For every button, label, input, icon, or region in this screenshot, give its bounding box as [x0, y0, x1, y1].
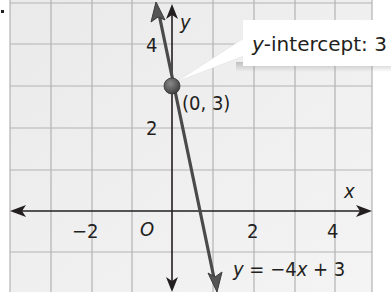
- x-tick-label: 4: [327, 219, 338, 243]
- equation-label: y = −4x + 3: [232, 257, 345, 281]
- x-tick-label: 2: [247, 219, 258, 243]
- origin-label: O: [140, 217, 154, 241]
- point-label: (0, 3): [182, 91, 230, 115]
- y-tick-label: 2: [146, 116, 157, 140]
- x-axis-label: x: [343, 179, 355, 203]
- corner-mark: [1, 10, 4, 13]
- coordinate-plane: x y O −2 2 4 2 4 y-intercept: 3 (0, 3) y…: [0, 0, 391, 292]
- x-tick-label: −2: [72, 219, 99, 243]
- callout-text: y-intercept: 3: [251, 32, 387, 56]
- y-tick-label: 4: [146, 33, 157, 57]
- y-intercept-point: [164, 78, 180, 94]
- y-axis-label: y: [179, 10, 191, 34]
